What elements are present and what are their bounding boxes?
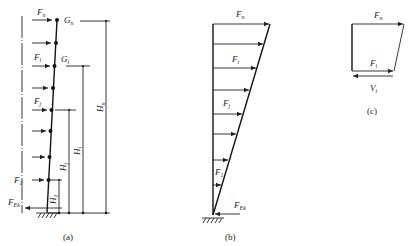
panel-c: Fn Fi Vi (c) — [352, 10, 404, 116]
panel-b: Fn Fi Fj F1 FEk (b) — [202, 9, 270, 242]
force-distribution-arrows — [213, 24, 269, 185]
height-dimensions — [48, 20, 110, 214]
label-H1: H1 — [48, 195, 59, 206]
panel-a: Fn Gn Fi Gi Fj F1 FEk Hn Hi Hj H1 (a) — [7, 7, 110, 242]
label-Fi: Fi — [231, 54, 240, 65]
label-Hi: Hi — [72, 147, 83, 157]
label-F1: F1 — [13, 175, 23, 186]
label-Fj: Fj — [222, 98, 231, 109]
label-Hj: Hj — [58, 163, 69, 173]
deflected-column — [47, 20, 57, 213]
caption-a: (a) — [63, 232, 73, 242]
label-Vi: Vi — [370, 83, 378, 94]
label-Gn: Gn — [64, 15, 74, 26]
slanted-side — [394, 24, 404, 71]
label-Gi: Gi — [61, 54, 70, 65]
caption-c: (c) — [367, 106, 377, 116]
label-F1: F1 — [214, 167, 224, 178]
label-Fn: Fn — [373, 10, 383, 21]
label-FEk: FEk — [7, 197, 20, 208]
label-Fi: Fi — [369, 58, 378, 69]
triangular-envelope — [213, 24, 270, 215]
ground-support — [202, 218, 224, 223]
label-Fn: Fn — [36, 7, 46, 18]
ground-support — [36, 213, 58, 218]
label-FEk: FEk — [233, 200, 246, 211]
label-Hn: Hn — [95, 103, 106, 114]
caption-b: (b) — [225, 232, 236, 242]
label-Fn: Fn — [235, 9, 245, 20]
seismic-force-figure: Fn Gn Fi Gi Fj F1 FEk Hn Hi Hj H1 (a) — [0, 0, 408, 246]
label-Fj: Fj — [33, 96, 42, 107]
label-Fi: Fi — [33, 52, 42, 63]
